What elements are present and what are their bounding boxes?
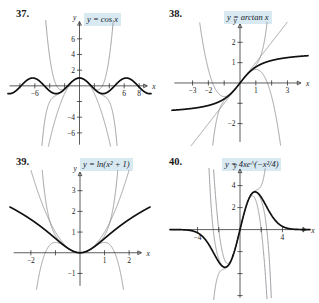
x-tick-label: −3 — [189, 86, 197, 95]
y-axis-label: y — [72, 13, 77, 22]
x-tick-label: −6 — [31, 89, 39, 98]
y-axis-label: y — [233, 161, 238, 170]
y-tick-label: 2 — [232, 203, 236, 212]
figure-panel-38: 38. y = arctan x −3−21321−2xy — [160, 0, 319, 151]
x-tick-label: 1 — [103, 256, 107, 265]
x-tick-label: 1 — [254, 86, 258, 95]
y-tick-label: 1 — [72, 228, 76, 237]
y-axis-label: y — [73, 164, 78, 173]
y-tick-label: −4 — [67, 113, 75, 122]
x-tick-label: 8 — [137, 89, 141, 98]
x-axis-label: x — [310, 226, 315, 235]
x-axis-label: x — [305, 79, 310, 88]
y-tick-label: 1 — [232, 58, 236, 67]
y-tick-label: 3 — [72, 186, 76, 195]
x-tick-label: 3 — [286, 86, 290, 95]
figure-panel-37: 37. y = cos x −668642−4−6xy — [0, 0, 159, 151]
plot-37: −668642−4−6xy — [0, 0, 159, 151]
y-tick-label: −2 — [228, 119, 236, 128]
plot-38: −3−21321−2xy — [160, 0, 319, 151]
figure-panel-39: 39. y = ln(x² + 1) −212321−1xy — [0, 152, 159, 303]
x-tick-label: 6 — [122, 89, 126, 98]
y-tick-label: 2 — [232, 38, 236, 47]
y-tick-label: −1 — [68, 269, 76, 278]
x-axis-label: x — [151, 82, 156, 91]
y-tick-label: 4 — [71, 50, 75, 59]
x-tick-label: 4 — [281, 233, 285, 242]
plot-39: −212321−1xy — [0, 152, 159, 303]
y-tick-label: 4 — [232, 181, 236, 190]
y-tick-label: 6 — [71, 35, 75, 44]
x-tick-label: 2 — [127, 256, 131, 265]
y-axis-label: y — [233, 16, 238, 25]
x-tick-label: −2 — [27, 256, 35, 265]
x-axis-label: x — [145, 249, 150, 258]
x-tick-label: −2 — [204, 86, 212, 95]
plot-40: −4442xy — [160, 152, 319, 303]
exercise-figure-sheet: 37. y = cos x −668642−4−6xy 38. y = arct… — [0, 0, 319, 303]
y-tick-label: −6 — [67, 129, 75, 138]
y-tick-label: 2 — [71, 66, 75, 75]
y-tick-label: 2 — [72, 207, 76, 216]
figure-panel-40: 40. y = 4xe^(−x²/4) −4442xy — [160, 152, 319, 303]
